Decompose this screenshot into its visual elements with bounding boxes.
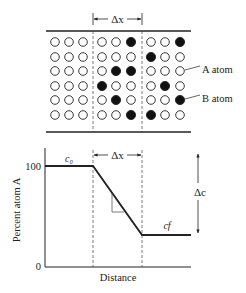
a-atom	[98, 96, 107, 105]
a-atom	[79, 82, 88, 91]
y-tick-0: 0	[36, 261, 41, 272]
chart-delta-x-dimension: Δx	[94, 149, 141, 161]
a-atom	[51, 38, 60, 47]
x-axis-label: Distance	[100, 272, 137, 283]
b-atom	[160, 81, 169, 90]
b-atom	[175, 95, 184, 104]
b-atom	[97, 81, 106, 90]
a-atom	[65, 96, 74, 105]
a-atom	[98, 38, 107, 47]
a-atom	[51, 67, 60, 76]
a-atom	[65, 67, 74, 76]
y-axis-label: Percent atom A	[11, 177, 22, 242]
a-atom	[112, 53, 121, 62]
b-atom	[146, 52, 155, 61]
a-atom	[51, 53, 60, 62]
a-atom	[79, 38, 88, 47]
a-atom	[161, 38, 170, 47]
y-tick-100: 100	[25, 161, 41, 172]
cf-label: cf	[163, 220, 171, 231]
a-atom	[161, 53, 170, 62]
a-atom	[51, 96, 60, 105]
a-atom	[127, 53, 136, 62]
a-atom	[65, 38, 74, 47]
a-atom	[176, 67, 185, 76]
b-atom	[126, 37, 135, 46]
delta-c-dimension: Δc	[194, 154, 206, 233]
a-atom	[98, 67, 107, 76]
a-atom	[176, 111, 185, 120]
a-atom	[51, 82, 60, 91]
a-atom	[79, 96, 88, 105]
a-atom	[161, 96, 170, 105]
a-atom	[161, 111, 170, 120]
c0-label: c₀	[65, 153, 73, 164]
a-atom	[51, 111, 60, 120]
b-atom	[111, 95, 120, 104]
atom-grid	[51, 37, 185, 119]
b-atom	[126, 110, 135, 119]
atom-lattice-panel: Δx A atom B atom	[46, 13, 233, 132]
concentration-profile-chart: 100 0 Percent atom A Distance c₀ cf Δx Δ…	[11, 148, 206, 283]
a-atom	[176, 53, 185, 62]
a-atom	[127, 82, 136, 91]
a-atom	[65, 82, 74, 91]
a-atom	[147, 38, 156, 47]
b-atom	[175, 37, 184, 46]
b-atom-label: B atom	[202, 93, 233, 104]
b-atom	[111, 66, 120, 75]
a-atom	[176, 82, 185, 91]
legend-a-atom: A atom	[185, 64, 233, 75]
b-atom	[146, 110, 155, 119]
a-atom	[79, 111, 88, 120]
a-atom	[65, 53, 74, 62]
a-atom	[112, 111, 121, 120]
top-delta-x-label: Δx	[111, 13, 124, 25]
a-atom	[112, 38, 121, 47]
a-atom	[147, 82, 156, 91]
a-atom	[112, 82, 121, 91]
a-atom	[98, 111, 107, 120]
legend-b-atom: B atom	[185, 93, 233, 104]
top-delta-x-dimension: Δx	[93, 13, 142, 25]
a-atom	[79, 67, 88, 76]
a-atom	[79, 53, 88, 62]
a-atom	[147, 67, 156, 76]
a-atom	[127, 96, 136, 105]
delta-c-label: Δc	[194, 186, 206, 198]
diffusion-diagram: Δx A atom B atom 100 0 Percent atom A Di…	[0, 0, 246, 293]
a-atom	[65, 111, 74, 120]
a-atom-label: A atom	[202, 64, 233, 75]
b-atom	[126, 66, 135, 75]
a-atom	[161, 67, 170, 76]
chart-delta-x-label: Δx	[111, 149, 124, 161]
a-atom	[98, 53, 107, 62]
a-atom	[147, 96, 156, 105]
